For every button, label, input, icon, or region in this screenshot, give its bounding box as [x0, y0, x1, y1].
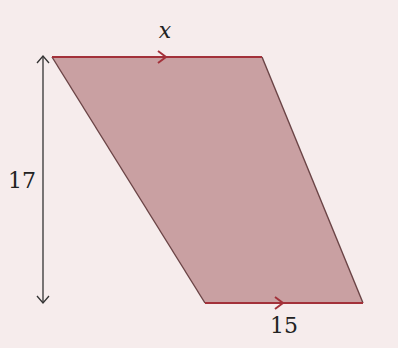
top-length-label: x [159, 18, 172, 43]
height-label: 17 [8, 168, 36, 193]
bottom-length-label: 15 [270, 313, 298, 338]
quadrilateral-shape [52, 57, 363, 303]
diagram-canvas: x 17 15 [0, 0, 398, 348]
